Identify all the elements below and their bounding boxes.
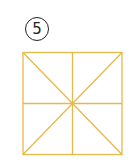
square-grid-figure <box>0 0 135 168</box>
